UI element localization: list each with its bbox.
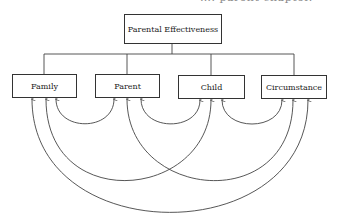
factor-box-child: Child: [178, 75, 245, 99]
factor-box-parent: Parent: [95, 74, 160, 98]
arc-family-parent: [56, 99, 114, 124]
arc-family-child: [46, 99, 211, 181]
factor-label: Circumstance: [266, 83, 322, 92]
root-box-parental-effectiveness: Parental Effectiveness: [124, 14, 222, 44]
root-label: Parental Effectiveness: [128, 25, 218, 34]
arc-child-circumstance: [222, 100, 282, 124]
factor-label: Parent: [114, 82, 141, 91]
arc-parent-child: [141, 99, 200, 124]
factor-box-family: Family: [12, 74, 77, 98]
factor-label: Family: [31, 82, 58, 91]
factor-box-circumstance: Circumstance: [261, 75, 327, 99]
factor-label: Child: [201, 83, 223, 92]
arc-family-circumstance: [32, 99, 308, 212]
